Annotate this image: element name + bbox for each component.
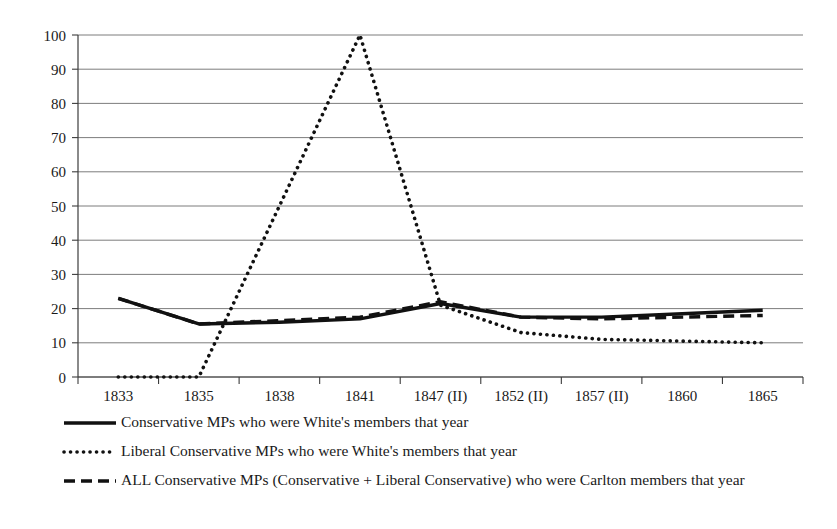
dotted-line-marker <box>62 442 118 462</box>
y-axis <box>72 35 78 377</box>
legend-label: Conservative MPs who were White's member… <box>121 412 468 431</box>
x-tick-label: 1835 <box>184 388 214 404</box>
y-tick-label: 50 <box>51 199 66 215</box>
x-tick-label: 1857 (II) <box>575 388 629 405</box>
series-line-dashed <box>118 298 762 324</box>
y-tick-label: 40 <box>51 233 66 249</box>
dashed-line-marker <box>62 471 118 491</box>
x-tick-label: 1841 <box>345 388 375 404</box>
legend-item[interactable]: ALL Conservative MPs (Conservative + Lib… <box>62 470 832 490</box>
y-tick-label: 70 <box>51 130 66 146</box>
y-tick-label: 100 <box>44 28 67 44</box>
legend-item[interactable]: Liberal Conservative MPs who were White'… <box>62 441 832 461</box>
line-chart: 0102030405060708090100 18331835183818411… <box>0 0 837 410</box>
legend-item[interactable]: Conservative MPs who were White's member… <box>62 412 832 432</box>
x-tick-label: 1860 <box>667 388 697 404</box>
chart-figure: 0102030405060708090100 18331835183818411… <box>0 0 837 529</box>
legend-label: Liberal Conservative MPs who were White'… <box>121 441 517 460</box>
x-tick-labels: 18331835183818411847 (II)1852 (II)1857 (… <box>103 388 777 405</box>
x-tick-label: 1847 (II) <box>414 388 468 405</box>
x-tick-label: 1833 <box>103 388 133 404</box>
y-tick-label: 20 <box>51 301 66 317</box>
x-tick-label: 1865 <box>748 388 778 404</box>
y-tick-label: 10 <box>51 335 66 351</box>
y-tick-label: 90 <box>51 62 66 78</box>
y-tick-label: 60 <box>51 164 66 180</box>
legend-label: ALL Conservative MPs (Conservative + Lib… <box>121 470 745 489</box>
solid-line-marker <box>62 413 118 433</box>
chart-legend: Conservative MPs who were White's member… <box>62 412 832 499</box>
x-axis <box>78 377 803 384</box>
y-tick-labels: 0102030405060708090100 <box>44 28 67 386</box>
gridlines <box>78 35 803 377</box>
x-tick-label: 1838 <box>264 388 294 404</box>
x-tick-label: 1852 (II) <box>494 388 548 405</box>
y-tick-label: 80 <box>51 96 66 112</box>
y-tick-label: 0 <box>59 370 67 386</box>
y-tick-label: 30 <box>51 267 66 283</box>
